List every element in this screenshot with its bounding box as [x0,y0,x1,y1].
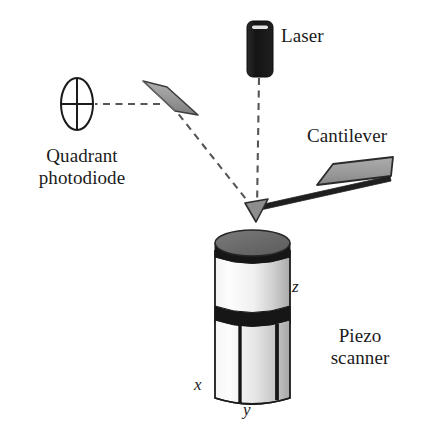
laser-aperture-highlight [252,26,268,29]
afm-schematic-diagram: Laser Cantilever Quadrantphotodiode Piez… [0,0,425,444]
label-axis-x: x [194,375,202,395]
laser-body [247,21,273,77]
label-piezo-scanner-line2: scanner [331,347,390,368]
beam-reflected-to-mirror [165,97,253,208]
label-quadrant-photodiode-line1: Quadrant [46,145,118,166]
label-piezo-scanner-line1: Piezo [339,325,382,346]
label-quadrant-photodiode: Quadrantphotodiode [8,145,156,190]
afm-diagram-canvas [0,0,425,444]
label-laser: Laser [281,25,324,47]
label-axis-y: y [243,400,251,420]
quadrant-photodiode [61,78,93,130]
beam-incident [257,78,259,208]
mirror [143,81,198,115]
scanner-top-cap [215,230,290,256]
laser-diode [247,21,273,77]
label-piezo-scanner: Piezoscanner [302,325,418,370]
cantilever [245,157,393,222]
cantilever-tip [245,199,268,222]
label-quadrant-photodiode-line2: photodiode [39,167,126,188]
label-cantilever: Cantilever [307,125,387,147]
label-axis-z: z [292,277,299,297]
mirror-surface [143,81,198,115]
piezo-scanner [215,230,290,404]
